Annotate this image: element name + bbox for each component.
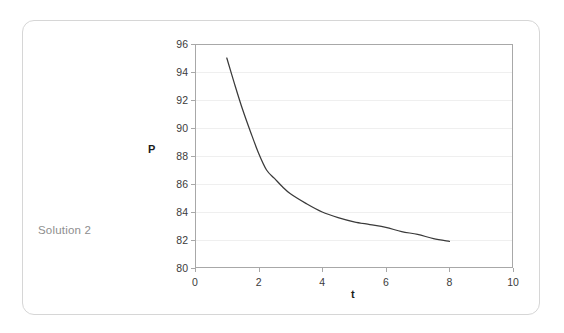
- x-tick-label: 2: [256, 276, 262, 288]
- screenshot-root: Solution 2 P t 808284868890929496 024681…: [0, 0, 564, 333]
- y-tick-label: 94: [176, 66, 188, 78]
- x-tick-label: 6: [383, 276, 389, 288]
- y-axis-title: P: [148, 143, 155, 155]
- y-tick-label: 90: [176, 122, 188, 134]
- y-tick-label: 92: [176, 94, 188, 106]
- y-tick-label: 84: [176, 206, 188, 218]
- x-tick-mark: [449, 268, 450, 272]
- chart-svg: [195, 44, 513, 268]
- series-line-p: [227, 58, 450, 241]
- y-tick-label: 80: [176, 262, 188, 274]
- x-tick-label: 0: [192, 276, 198, 288]
- x-tick-mark: [386, 268, 387, 272]
- x-tick-label: 4: [319, 276, 325, 288]
- x-axis-title: t: [351, 288, 355, 300]
- y-tick-label: 82: [176, 234, 188, 246]
- y-tick-label: 96: [176, 38, 188, 50]
- line-chart: 808284868890929496 0246810: [195, 44, 513, 268]
- x-tick-label: 10: [507, 276, 519, 288]
- x-tick-mark: [195, 268, 196, 272]
- x-tick-mark: [513, 268, 514, 272]
- x-tick-label: 8: [446, 276, 452, 288]
- y-tick-label: 86: [176, 178, 188, 190]
- x-tick-mark: [259, 268, 260, 272]
- y-tick-label: 88: [176, 150, 188, 162]
- x-tick-mark: [322, 268, 323, 272]
- solution-caption: Solution 2: [38, 224, 91, 236]
